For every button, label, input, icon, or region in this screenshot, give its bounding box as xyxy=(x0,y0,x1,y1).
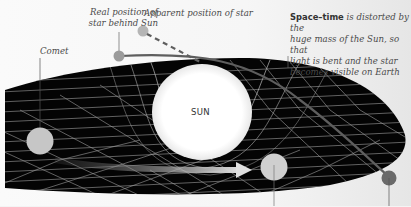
comet-label: Comet xyxy=(40,46,68,57)
apparent-position-label: Apparent position of star xyxy=(144,8,253,19)
earth xyxy=(382,171,397,207)
real-position-line1: Real position of xyxy=(52,7,158,18)
space-time-line3: light is bent and the star xyxy=(290,56,410,67)
space-time-line4: becomes visible on Earth xyxy=(290,67,410,78)
real-star xyxy=(114,32,125,62)
space-time-term: Space–time xyxy=(290,12,344,22)
real-position-line2: star behind Sun xyxy=(52,18,158,29)
real-position-label: Real position of star behind Sun xyxy=(52,7,158,29)
sun-label: SUN xyxy=(191,107,210,117)
diagram-canvas: Real position of star behind Sun Apparen… xyxy=(0,0,411,206)
space-time-caption: Space–time is distorted by the huge mass… xyxy=(290,12,410,78)
space-time-line2: huge mass of the Sun, so that xyxy=(290,34,410,56)
